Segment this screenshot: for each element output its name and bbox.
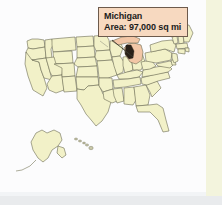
state-montana <box>52 37 76 52</box>
state-pennsylvania <box>145 49 172 63</box>
state-north-dakota <box>76 36 94 47</box>
state-new-mexico <box>62 76 77 92</box>
state-alaska <box>31 130 62 162</box>
contiguous-states-group <box>25 25 193 132</box>
state-kansas <box>76 66 98 77</box>
alaska-panhandle <box>57 146 66 158</box>
hawaii-island-hawaii <box>89 146 93 149</box>
hawaii-island-maui <box>85 144 88 146</box>
state-wyoming <box>53 51 73 64</box>
state-iowa <box>95 50 112 61</box>
state-south-dakota <box>77 46 95 58</box>
callout-state-name: Michigan <box>104 11 183 22</box>
inset-alaska-group <box>16 130 66 171</box>
inset-hawaii-group <box>74 138 93 150</box>
state-minnesota <box>94 35 110 51</box>
callout-area-text: Area: 97,000 sq mi <box>104 22 183 33</box>
state-connecticut <box>178 49 185 54</box>
callout-box-michigan: Michigan Area: 97,000 sq mi <box>98 7 188 37</box>
state-nebraska <box>74 57 97 67</box>
hawaii-island-molokai <box>83 142 86 144</box>
state-rhode-island <box>185 48 189 52</box>
aleutian-chain <box>16 160 36 171</box>
state-florida <box>136 104 169 132</box>
map-figure: Michigan Area: 97,000 sq mi Outline map … <box>0 0 222 205</box>
hawaii-island-oahu <box>78 140 81 142</box>
hawaii-island-kauai <box>74 138 77 140</box>
